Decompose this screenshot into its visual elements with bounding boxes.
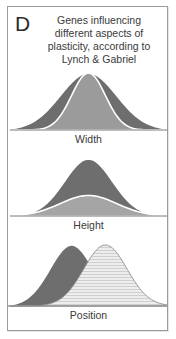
chart-panel-height: Height [8, 155, 168, 241]
chart-panel-width: Width [8, 69, 168, 155]
caption-line-1: Genes influencing [34, 14, 164, 27]
panel-label-height: Height [8, 219, 168, 231]
figure-caption: D Genes influencing different aspects of… [8, 12, 167, 72]
panel-label-position: Position [8, 309, 168, 321]
caption-text: Genes influencing different aspects of p… [34, 14, 164, 66]
curve-canvas-height [8, 155, 168, 219]
panel-label-width: Width [8, 133, 168, 145]
curve-canvas-position [8, 241, 168, 309]
caption-line-2: different aspects of [34, 27, 164, 40]
curve-group-position [8, 241, 168, 309]
curve-group-width [8, 69, 168, 133]
figure-panel: D Genes influencing different aspects of… [7, 6, 168, 331]
curve-short-curve [8, 195, 168, 216]
panel-letter: D [15, 13, 30, 34]
chart-panel-position: Position [8, 241, 168, 331]
caption-line-3: plasticity, according to [34, 40, 164, 53]
caption-line-4: Lynch & Gabriel [34, 53, 164, 66]
curve-group-height [8, 155, 168, 219]
curve-canvas-width [8, 69, 168, 133]
